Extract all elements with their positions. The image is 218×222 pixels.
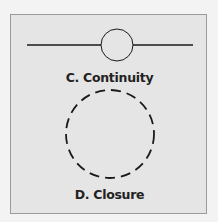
closure-dashed-circle — [66, 90, 154, 178]
continuity-circle — [101, 29, 133, 61]
continuity-label: C. Continuity — [11, 70, 208, 85]
continuity-diagram — [11, 15, 208, 215]
closure-label: D. Closure — [11, 187, 208, 202]
gestalt-principles-panel: C. Continuity D. Closure — [10, 14, 207, 214]
